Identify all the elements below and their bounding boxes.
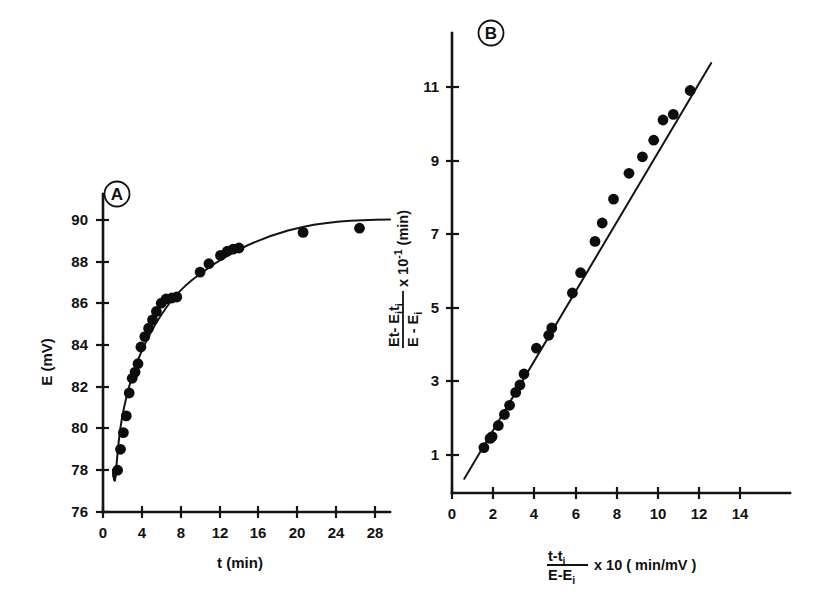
panel-a-x-axis-title: t (min) [217, 554, 263, 571]
panel-b-ytick-4: 9 [431, 152, 439, 169]
data-point [136, 342, 147, 353]
data-point [487, 431, 498, 442]
panel-a-ytick-6: 88 [71, 253, 88, 270]
data-point [195, 267, 206, 278]
data-point [118, 427, 129, 438]
data-point [685, 85, 696, 96]
data-point [597, 218, 608, 229]
panel-a-xtick-3: 12 [212, 524, 229, 541]
data-point [479, 442, 490, 453]
panel-b-xtick-2: 4 [530, 505, 539, 522]
figure-container: 76 78 80 82 84 86 88 90 0 4 8 12 [0, 0, 831, 603]
data-point [575, 267, 586, 278]
data-point [637, 151, 648, 162]
data-point [133, 358, 144, 369]
panel-b-y-tail: x 10-1 (min) [392, 210, 411, 287]
panel-a-y-axis-title: E (mV) [38, 338, 55, 386]
data-point [648, 135, 659, 146]
panel-a-ytick-4: 84 [71, 336, 88, 353]
data-point [204, 258, 215, 269]
data-point [519, 369, 530, 380]
panel-a-xtick-6: 24 [328, 524, 345, 541]
panel-b-xtick-1: 2 [489, 505, 497, 522]
data-point [531, 343, 542, 354]
data-point [354, 223, 365, 234]
data-point [608, 194, 619, 205]
data-point [546, 323, 557, 334]
panel-b-ytick-2: 5 [431, 299, 439, 316]
data-point [298, 227, 309, 238]
panel-a-xtick-0: 0 [99, 524, 107, 541]
data-point [668, 109, 679, 120]
panel-b-xtick-0: 0 [448, 505, 456, 522]
panel-a-xtick-7: 28 [367, 524, 384, 541]
data-point [121, 411, 132, 422]
data-point [171, 292, 182, 303]
data-point [624, 168, 635, 179]
panel-a-xtick-1: 4 [138, 524, 147, 541]
panel-a-letter: A [111, 185, 123, 204]
panel-b-ytick-3: 7 [431, 225, 439, 242]
panel-b-xtick-5: 10 [650, 505, 667, 522]
panel-b-xtick-6: 12 [691, 505, 708, 522]
data-point [590, 236, 601, 247]
panel-b-ytick-1: 3 [431, 372, 439, 389]
data-point [234, 243, 245, 254]
data-point [658, 115, 669, 126]
data-point [124, 388, 135, 399]
panel-a-xtick-5: 20 [289, 524, 306, 541]
panel-b-x-tail: x 10 ( min/mV ) [594, 557, 697, 573]
data-point [115, 444, 126, 455]
data-point [493, 420, 504, 431]
data-point [499, 409, 510, 420]
panel-b-letter: B [485, 24, 497, 43]
panel-a-ytick-0: 76 [71, 503, 88, 520]
panel-a-ytick-3: 82 [71, 378, 88, 395]
panel-a-xtick-4: 16 [250, 524, 267, 541]
panel-a-ytick-2: 80 [71, 419, 88, 436]
panel-b-ytick-0: 1 [431, 446, 439, 463]
panel-b-xtick-3: 6 [572, 505, 580, 522]
panel-b-xtick-7: 14 [732, 505, 749, 522]
data-point [504, 400, 515, 411]
panel-a-xtick-2: 8 [177, 524, 185, 541]
panel-b-xtick-4: 8 [613, 505, 621, 522]
data-point [515, 380, 526, 391]
panel-a-ytick-7: 90 [71, 211, 88, 228]
data-point [567, 288, 578, 299]
panel-b-ytick-5: 11 [423, 78, 439, 95]
panel-a-ytick-1: 78 [71, 461, 88, 478]
data-point [112, 465, 123, 476]
panel-a-ytick-5: 86 [71, 294, 88, 311]
figure-svg: 76 78 80 82 84 86 88 90 0 4 8 12 [0, 0, 831, 603]
